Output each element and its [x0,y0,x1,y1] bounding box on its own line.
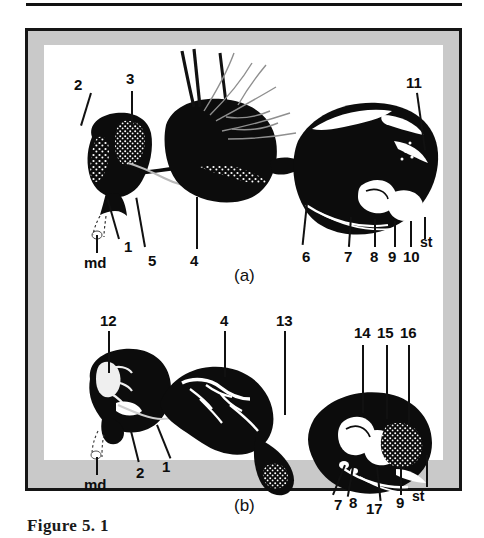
leader-line-10-a [410,221,412,247]
label-4-a: 4 [190,253,198,268]
label-17-b: 17 [366,501,383,516]
leader-line-16-b [408,345,410,427]
label-2-a: 2 [74,77,82,92]
label-1-a: 1 [124,239,132,254]
label-11-a: 11 [406,75,422,90]
leader-line-12-b [108,331,110,373]
leader-line-md-a [96,235,98,253]
label-5-a: 5 [148,253,156,268]
label-16-b: 16 [400,325,417,340]
label-7-b: 7 [334,497,342,512]
label-6-a: 6 [302,249,310,264]
panel-label-a: (a) [234,267,255,284]
leader-line-st-b [426,455,428,487]
figure-caption: Figure 5. 1 [27,516,109,536]
leader-line-4-a [196,197,198,249]
top-rule-divider [26,3,462,6]
figure-frame: 2 3 1 5 4 md 6 7 8 9 10 11 st (a) [25,28,462,491]
label-7-a: 7 [344,249,352,264]
leader-line-8-a [374,219,376,247]
leader-line-9-a [394,221,396,247]
label-1-b: 1 [162,459,170,474]
label-3-a: 3 [126,71,134,86]
panel-label-b: (b) [234,497,255,514]
label-2-b: 2 [136,465,144,480]
label-9-a: 9 [388,249,396,264]
label-14-b: 14 [354,325,371,340]
label-9-b: 9 [396,495,404,510]
label-8-a: 8 [370,249,378,264]
label-st-a: st [420,235,432,249]
figure-canvas: 2 3 1 5 4 md 6 7 8 9 10 11 st (a) [44,45,443,460]
label-4-b: 4 [220,313,228,328]
leader-line-9-b [400,465,402,495]
label-8-b: 8 [349,495,357,510]
leader-line-3-a [131,91,133,125]
document-page: 2 3 1 5 4 md 6 7 8 9 10 11 st (a) [0,0,484,538]
label-12-b: 12 [100,313,117,328]
label-md-a: md [84,255,107,270]
label-10-a: 10 [403,249,420,264]
leader-line-md-b [96,457,98,475]
panel-a-insect-body [88,49,439,239]
label-13-b: 13 [276,313,293,328]
leader-line-14-b [362,345,364,413]
label-st-b: st [412,489,424,503]
leader-line-13-b [284,331,286,415]
label-md-b: md [84,477,107,492]
leader-line-15-b [386,345,388,419]
leader-line-4-b [224,331,226,377]
label-15-b: 15 [377,325,394,340]
